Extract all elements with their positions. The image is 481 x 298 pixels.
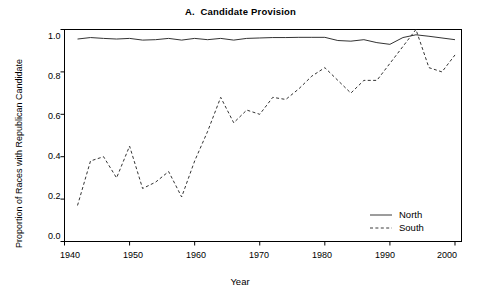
figure-panel-a: A. Candidate Provision Proportion of Rac… — [0, 0, 481, 298]
legend-label-south: South — [399, 222, 424, 233]
series-line-north — [78, 35, 455, 45]
plot-area — [0, 0, 481, 298]
x-tick-marks — [65, 242, 455, 246]
y-tick-marks — [61, 30, 65, 242]
legend-label-north: North — [399, 209, 422, 220]
series-line-south — [78, 30, 455, 206]
